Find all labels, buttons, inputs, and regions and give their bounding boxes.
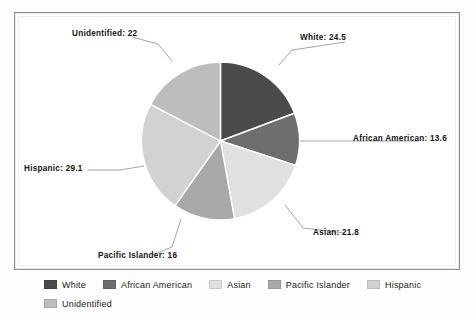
slice-label-unidentified: Unidentified: 22 [72, 29, 137, 39]
legend-item-asian[interactable]: Asian [209, 278, 251, 291]
slice-label-white: White: 24.5 [300, 33, 346, 43]
slice-label-pacific-islander: Pacific Islander: 16 [98, 251, 177, 261]
slice-label-african-american: African American: 13.6 [353, 134, 447, 144]
legend-item-pacific-islander[interactable]: Pacific Islander [268, 278, 350, 291]
slice-label-hispanic: Hispanic: 29.1 [24, 164, 83, 174]
legend-label-pacific-islander: Pacific Islander [286, 280, 350, 290]
legend-item-unidentified[interactable]: Unidentified [44, 297, 112, 310]
legend-label-white: White [62, 280, 86, 290]
legend-swatch-hispanic [367, 280, 380, 289]
legend-label-unidentified: Unidentified [62, 299, 112, 309]
chart-legend: WhiteAfrican AmericanAsianPacific Island… [44, 278, 464, 310]
legend-item-white[interactable]: White [44, 278, 86, 291]
legend-label-african-american: African American [121, 280, 192, 290]
legend-swatch-asian [209, 280, 222, 289]
legend-swatch-white [44, 280, 57, 289]
legend-swatch-african-american [103, 280, 116, 289]
legend-swatch-pacific-islander [268, 280, 281, 289]
slice-label-asian: Asian: 21.8 [313, 228, 359, 238]
legend-swatch-unidentified [44, 299, 57, 308]
legend-item-hispanic[interactable]: Hispanic [367, 278, 421, 291]
legend-label-hispanic: Hispanic [385, 280, 421, 290]
legend-label-asian: Asian [227, 280, 251, 290]
chart-root: White: 24.5 African American: 13.6 Asian… [0, 0, 475, 315]
legend-item-african-american[interactable]: African American [103, 278, 192, 291]
